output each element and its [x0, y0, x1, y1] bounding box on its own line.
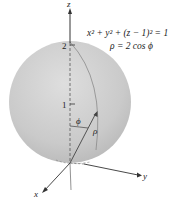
z-axis-below	[70, 163, 71, 190]
equation-spherical: ρ = 2 cos ϕ	[109, 41, 153, 51]
z-axis-label: z	[66, 0, 71, 9]
rho-label: ρ	[92, 126, 98, 136]
x-axis-label: x	[33, 189, 38, 199]
equation-cartesian: x² + y² + (z − 1)² = 1	[86, 28, 168, 39]
z-tick-label-1: 1	[62, 100, 67, 110]
y-axis	[84, 164, 138, 175]
y-axis-arrow	[137, 173, 142, 178]
phi-label: ϕ	[76, 116, 81, 126]
x-axis	[44, 163, 70, 191]
z-tick-label-2: 2	[62, 41, 67, 51]
y-axis-label: y	[142, 171, 147, 181]
sphere-diagram: z y x 2 1 ϕ ρ x² + y² + (z − 1)² = 1 ρ =…	[0, 0, 190, 208]
